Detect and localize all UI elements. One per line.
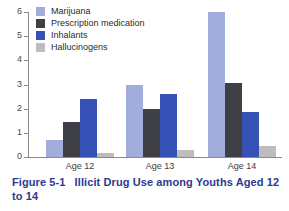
legend-swatch-prescription-medication xyxy=(36,19,45,28)
bar-age-14-prescription-medication xyxy=(225,83,242,157)
bar-age-13-hallucinogens xyxy=(177,150,194,157)
bar-age-14-hallucinogens xyxy=(259,146,276,157)
legend-item: Marijuana xyxy=(36,5,216,17)
bar-age-13-inhalants xyxy=(160,94,177,157)
figure-container: 6543210 Age 12Age 13Age 14 MarijuanaPres… xyxy=(0,0,289,211)
legend-swatch-marijuana xyxy=(36,7,45,16)
bar-age-13-marijuana xyxy=(126,85,143,158)
figure-caption-number: Figure 5-1 xyxy=(12,176,66,188)
legend-item: Inhalants xyxy=(36,29,216,41)
x-axis-label-age-13: Age 13 xyxy=(126,161,194,171)
bar-age-12-hallucinogens xyxy=(97,153,114,157)
legend-item-label: Hallucinogens xyxy=(51,42,108,52)
legend-item-label: Marijuana xyxy=(51,6,91,16)
legend-item: Hallucinogens xyxy=(36,41,216,53)
x-axis-label-age-12: Age 12 xyxy=(46,161,114,171)
bar-age-12-inhalants xyxy=(80,99,97,157)
bar-age-12-marijuana xyxy=(46,140,63,157)
legend-swatch-hallucinogens xyxy=(36,43,45,52)
legend-item-label: Prescription medication xyxy=(51,18,145,28)
legend-item-label: Inhalants xyxy=(51,30,88,40)
legend-swatch-inhalants xyxy=(36,31,45,40)
bar-age-13-prescription-medication xyxy=(143,109,160,157)
figure-caption: Figure 5-1Illicit Drug Use among Youths … xyxy=(12,176,280,203)
bar-age-12-prescription-medication xyxy=(63,122,80,157)
x-axis-label-age-14: Age 14 xyxy=(208,161,276,171)
chart-legend: MarijuanaPrescription medicationInhalant… xyxy=(36,5,216,53)
bar-age-14-inhalants xyxy=(242,112,259,157)
legend-item: Prescription medication xyxy=(36,17,216,29)
